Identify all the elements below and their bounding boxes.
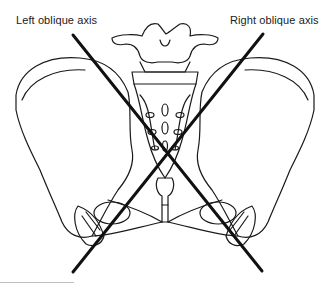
right-obturator-foramen bbox=[200, 202, 236, 224]
pelvis-illustration bbox=[0, 0, 330, 285]
right-oblique-axis-label: Right oblique axis bbox=[230, 14, 319, 26]
bottom-rule bbox=[0, 282, 74, 283]
lumbar-vertebra bbox=[112, 24, 218, 63]
coccyx bbox=[156, 178, 173, 205]
pelvis-diagram: Left oblique axis Right oblique axis bbox=[0, 0, 330, 285]
left-oblique-axis-label: Left oblique axis bbox=[16, 14, 97, 26]
